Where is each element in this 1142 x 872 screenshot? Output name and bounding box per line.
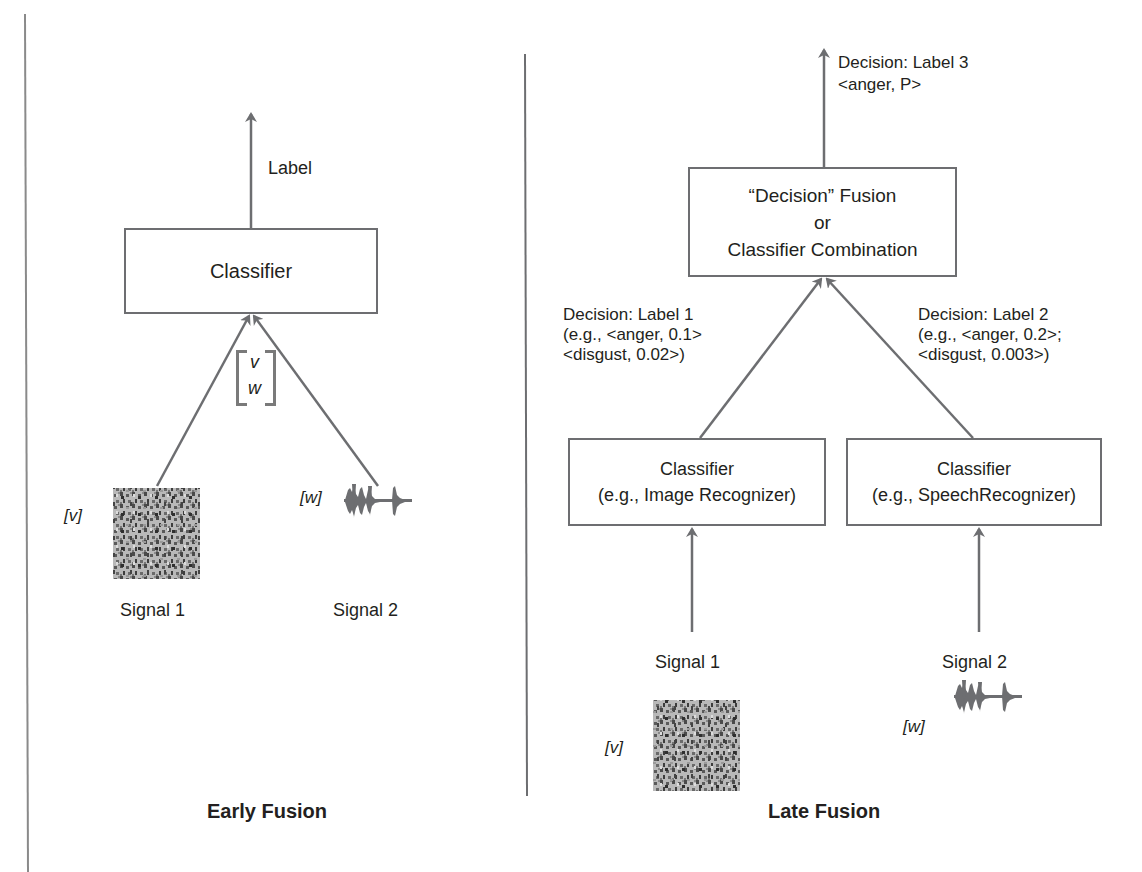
classifier1-line2: (e.g., Image Recognizer) xyxy=(598,482,796,508)
page-left-border xyxy=(25,14,28,872)
image-recognizer-box: Classifier (e.g., Image Recognizer) xyxy=(568,438,826,526)
decision2-line1: Decision: Label 2 xyxy=(918,305,1062,325)
decision1-line1: Decision: Label 1 xyxy=(563,305,702,325)
fusion-box-line2: or xyxy=(814,209,831,236)
late-signal2-label: Signal 2 xyxy=(942,652,1007,673)
right-bracket xyxy=(265,350,276,406)
vector-w: w xyxy=(248,378,261,399)
late-signal1-label: Signal 1 xyxy=(655,652,720,673)
image-noise-icon xyxy=(113,488,200,579)
late-signal2-tag: [w] xyxy=(903,716,925,737)
final-decision-line2: <anger, P> xyxy=(838,74,968,96)
early-fusion-title: Early Fusion xyxy=(207,800,327,823)
waveform-icon xyxy=(344,484,412,518)
signal2-label: Signal 2 xyxy=(333,600,398,621)
classifier-label: Classifier xyxy=(210,259,292,284)
decision1-line3: <disgust, 0.02>) xyxy=(563,345,702,365)
decision-fusion-box: “Decision” Fusion or Classifier Combinat… xyxy=(688,167,957,277)
fusion-diagram: Label Classifier v w [v] [w] Signal 1 Si… xyxy=(0,0,1142,872)
early-classifier-box: Classifier xyxy=(124,228,378,314)
late-signal1-tag: [v] xyxy=(605,737,623,758)
connector-lines xyxy=(0,0,1142,872)
left-bracket xyxy=(236,350,247,406)
signal2-tag: [w] xyxy=(300,487,322,508)
output-label: Label xyxy=(268,158,312,179)
vector-v: v xyxy=(250,352,259,373)
decision2-text: Decision: Label 2 (e.g., <anger, 0.2>; <… xyxy=(918,305,1062,365)
final-decision-line1: Decision: Label 3 xyxy=(838,52,968,74)
decision1-line2: (e.g., <anger, 0.1> xyxy=(563,325,702,345)
late-fusion-title: Late Fusion xyxy=(768,800,880,823)
speech-recognizer-box: Classifier (e.g., SpeechRecognizer) xyxy=(846,438,1102,526)
decision1-arrow xyxy=(700,279,821,438)
classifier1-line1: Classifier xyxy=(660,456,734,482)
classifier2-line2: (e.g., SpeechRecognizer) xyxy=(872,482,1076,508)
fusion-box-line3: Classifier Combination xyxy=(727,236,917,263)
final-decision-text: Decision: Label 3 <anger, P> xyxy=(838,52,968,96)
decision1-text: Decision: Label 1 (e.g., <anger, 0.1> <d… xyxy=(563,305,702,365)
feature-vector: v w xyxy=(236,350,276,402)
image-noise-icon xyxy=(653,700,740,791)
decision2-line3: <disgust, 0.003>) xyxy=(918,345,1062,365)
panel-divider xyxy=(525,54,527,796)
waveform-icon xyxy=(954,680,1022,714)
decision2-line2: (e.g., <anger, 0.2>; xyxy=(918,325,1062,345)
signal1-label: Signal 1 xyxy=(120,600,185,621)
classifier2-line1: Classifier xyxy=(937,456,1011,482)
fusion-box-line1: “Decision” Fusion xyxy=(749,182,897,209)
signal1-tag: [v] xyxy=(64,505,82,526)
